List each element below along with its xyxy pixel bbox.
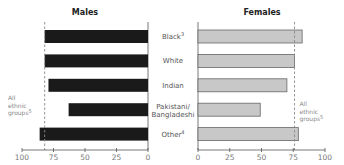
females-bar-other: [198, 128, 298, 141]
category-label: Black3: [162, 31, 184, 41]
males-x-tick-label: 75: [49, 153, 59, 162]
females-bar-indian: [198, 79, 287, 92]
category-label: Indian: [162, 82, 184, 90]
males-reference-label: ethnic: [8, 102, 27, 109]
superscript: 4: [181, 129, 184, 135]
category-label: White: [163, 57, 183, 65]
males-bar-other: [40, 128, 148, 141]
males-x-tick-label: 100: [15, 153, 30, 162]
females-x-tick-label: 0: [196, 153, 201, 162]
category-label: Bangladeshi: [152, 111, 195, 119]
females-x-tick-label: 75: [288, 153, 298, 162]
females-title: Females: [243, 8, 280, 17]
females-reference-label: ethnic: [300, 108, 319, 115]
females-x-tick-label: 100: [318, 153, 333, 162]
males-reference-label: groups5: [8, 108, 32, 117]
females-x-tick-label: 50: [257, 153, 267, 162]
males-x-tick-label: 0: [146, 153, 151, 162]
superscript: 5: [29, 108, 32, 114]
superscript: 3: [181, 31, 184, 37]
females-bar-white: [198, 54, 295, 67]
superscript: 5: [320, 114, 323, 120]
females-bar-black: [198, 30, 302, 43]
females-x-tick-label: 25: [225, 153, 235, 162]
males-bar-black: [45, 30, 148, 43]
category-label: Other4: [161, 129, 184, 139]
males-x-tick-label: 25: [112, 153, 122, 162]
chart-root: MalesAllethnicgroups51007550250FemalesAl…: [0, 0, 344, 165]
females-bar-pakistani-bangladeshi: [198, 103, 260, 116]
males-x-tick-label: 50: [80, 153, 90, 162]
females-reference-label: All: [300, 100, 308, 107]
males-bar-pakistani-bangladeshi: [69, 103, 148, 116]
males-reference-label: All: [8, 94, 16, 101]
males-bar-white: [45, 54, 148, 67]
males-bar-indian: [48, 79, 148, 92]
females-reference-label: groups5: [300, 114, 324, 123]
category-label: Pakistani/: [156, 103, 190, 111]
males-title: Males: [72, 8, 99, 17]
